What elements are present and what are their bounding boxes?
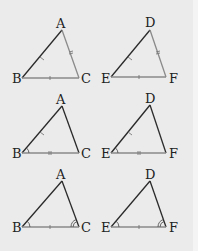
triangle-def-2: D E F — [101, 91, 178, 161]
vertex-label: B — [12, 220, 22, 235]
vertex-label: F — [169, 146, 178, 161]
triangle-abc-2: A B C — [12, 92, 91, 161]
row-asa: A B C D E F — [12, 167, 178, 235]
vertex-label: E — [101, 220, 111, 235]
triangle-def-3: D E F — [101, 167, 178, 235]
angle-arc — [27, 148, 30, 153]
triangle-def-1: D E F — [101, 15, 178, 86]
congruence-diagram: A B C D E F A B C — [0, 0, 198, 251]
vertex-label: B — [12, 71, 22, 86]
vertex-label: E — [101, 71, 111, 86]
vertex-label: A — [55, 16, 66, 31]
vertex-label: A — [55, 167, 66, 182]
vertex-label: C — [81, 146, 91, 161]
angle-arc — [27, 221, 30, 227]
triangle-abc-3: A B C — [12, 167, 91, 235]
vertex-label: F — [169, 71, 178, 86]
triangle-abc-1: A B C — [12, 16, 91, 86]
vertex-label: E — [101, 146, 111, 161]
vertex-label: D — [145, 91, 155, 106]
vertex-label: C — [81, 71, 91, 86]
vertex-label: B — [12, 146, 22, 161]
vertex-label: D — [145, 15, 155, 30]
vertex-label: D — [145, 167, 155, 182]
vertex-label: A — [55, 92, 66, 107]
tick-mark — [40, 57, 44, 60]
row-sss: A B C D E F — [12, 15, 178, 86]
row-sas: A B C D E F — [12, 91, 178, 161]
vertex-label: C — [81, 220, 91, 235]
vertex-label: F — [169, 220, 178, 235]
